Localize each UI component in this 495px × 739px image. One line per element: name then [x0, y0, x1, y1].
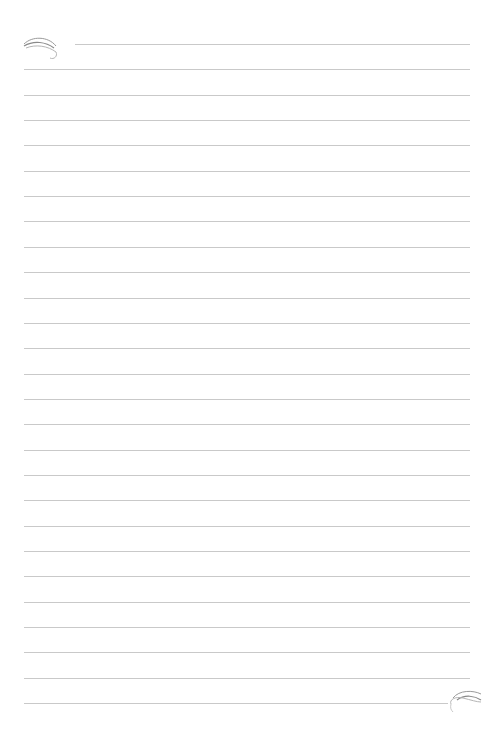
ruled-line [24, 576, 470, 577]
ruled-line [24, 374, 470, 375]
ruled-line [24, 678, 470, 679]
ruled-line [24, 602, 470, 603]
lined-paper-page [0, 0, 495, 739]
ruled-line [24, 145, 470, 146]
ruled-line [24, 221, 470, 222]
ruled-line [24, 272, 470, 273]
ruled-line [24, 424, 470, 425]
ruled-line [24, 627, 470, 628]
ruled-line [24, 703, 448, 704]
ruled-line [24, 196, 470, 197]
ruled-line [24, 247, 470, 248]
top-left-swirl-icon [22, 36, 58, 64]
ruled-line [24, 69, 470, 70]
ruled-line [24, 526, 470, 527]
ruled-line [24, 95, 470, 96]
ruled-line [24, 348, 470, 349]
ruled-line [24, 500, 470, 501]
ruled-line [24, 450, 470, 451]
ruled-line [24, 298, 470, 299]
ruled-line [75, 44, 470, 45]
ruled-line [24, 399, 470, 400]
ruled-line [24, 475, 470, 476]
ruled-line [24, 652, 470, 653]
ruled-line [24, 120, 470, 121]
ruled-line [24, 171, 470, 172]
ruled-line [24, 551, 470, 552]
ruled-line [24, 323, 470, 324]
bottom-right-swirl-icon [447, 688, 483, 716]
